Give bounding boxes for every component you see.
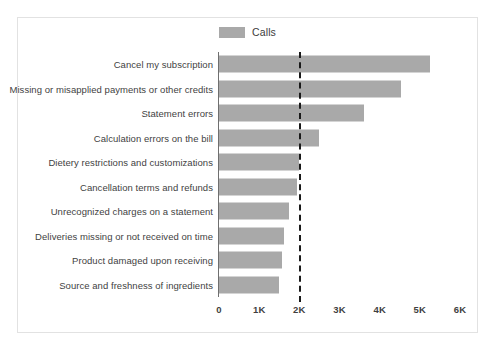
bar-calls	[219, 276, 279, 293]
category-label: Cancellation terms and refunds	[80, 181, 213, 192]
x-tick-label: 5K	[414, 304, 427, 315]
category-label: Deliveries missing or not received on ti…	[35, 230, 213, 241]
x-tick-label: 0	[216, 304, 221, 315]
legend-label-calls: Calls	[252, 26, 276, 38]
bar-row: Statement errors	[18, 101, 479, 126]
category-label: Calculation errors on the bill	[94, 132, 213, 143]
x-tick-label: 3K	[333, 304, 346, 315]
category-label: Product damaged upon receiving	[72, 255, 213, 266]
bar-calls	[219, 252, 282, 269]
x-tick-label: 6K	[454, 304, 467, 315]
category-label: Statement errors	[141, 108, 213, 119]
calls-legend-swatch	[219, 27, 245, 38]
category-label: Cancel my subscription	[114, 59, 213, 70]
category-label: Source and freshness of ingredients	[59, 279, 213, 290]
category-label: Dietery restrictions and customizations	[48, 157, 213, 168]
target-reference-line	[299, 52, 301, 302]
bar-calls	[219, 56, 430, 73]
category-label: Unrecognized charges on a statement	[51, 206, 213, 217]
bar-row: Product damaged upon receiving	[18, 248, 479, 273]
chart-frame: Calls Cancel my subscription Missing or …	[17, 17, 478, 333]
bar-row: Cancel my subscription	[18, 52, 479, 77]
x-axis: 0 1K 2K 3K 4K 5K 6K	[18, 298, 479, 328]
plot-area: Cancel my subscription Missing or misapp…	[18, 52, 479, 334]
bar-calls	[219, 129, 319, 146]
bar-row: Cancellation terms and refunds	[18, 175, 479, 200]
x-tick-label: 4K	[373, 304, 386, 315]
bar-row: Dietery restrictions and customizations	[18, 150, 479, 175]
bar-calls	[219, 227, 284, 244]
bar-row: Unrecognized charges on a statement	[18, 199, 479, 224]
bar-row: Source and freshness of ingredients	[18, 273, 479, 298]
bar-calls	[219, 178, 297, 195]
bar-calls	[219, 203, 289, 220]
bar-row: Calculation errors on the bill	[18, 126, 479, 151]
bar-calls	[219, 154, 299, 171]
chart-legend: Calls	[18, 26, 477, 38]
category-label: Missing or misapplied payments or other …	[9, 83, 213, 94]
bar-calls	[219, 105, 364, 122]
bar-row: Missing or misapplied payments or other …	[18, 77, 479, 102]
bar-calls	[219, 80, 401, 97]
x-tick-label: 1K	[253, 304, 266, 315]
x-tick-label: 2K	[293, 304, 306, 315]
bar-row: Deliveries missing or not received on ti…	[18, 224, 479, 249]
